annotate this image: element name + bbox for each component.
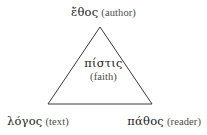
label-bottom-right-pathos: πάθος(reader): [127, 112, 201, 129]
rhetorical-triangle-figure: ἔθος(author) πίστις (faith) λόγος(text) …: [0, 0, 207, 135]
center-greek-text: πίστις: [0, 57, 207, 69]
apex-greek-text: ἔθος: [71, 5, 98, 19]
label-bottom-left-logos: λόγος(text): [7, 112, 69, 129]
apex-english-text: (author): [101, 7, 136, 18]
label-center-pistis: πίστις (faith): [0, 57, 207, 82]
label-apex-ethos: ἔθος(author): [0, 3, 207, 20]
bottom-right-greek-text: πάθος: [127, 114, 164, 128]
center-english-text: (faith): [0, 71, 207, 82]
bottom-right-english-text: (reader): [167, 116, 201, 127]
bottom-left-greek-text: λόγος: [7, 114, 42, 128]
bottom-left-english-text: (text): [45, 116, 68, 127]
